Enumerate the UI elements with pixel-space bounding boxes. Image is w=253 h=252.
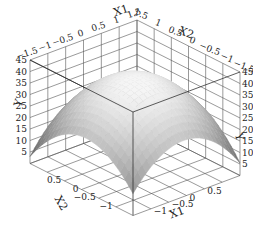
x2-tick-bottom: 0.5: [47, 175, 62, 185]
x1-tick-bottom: −1: [154, 206, 167, 216]
x2-tick-top: 1.5: [133, 7, 150, 22]
y-tick-left: 15: [16, 124, 28, 134]
y-tick-right: 35: [242, 90, 253, 100]
x2-tick-top: 1: [154, 17, 163, 28]
surface-plot: −1.5−1−0.500.511.5−1.5−1−0.500.511.55101…: [0, 0, 253, 252]
y-tick-right: 10: [242, 148, 253, 158]
y-tick-right: 45: [242, 67, 253, 77]
y-tick-left: 20: [16, 113, 28, 123]
x1-tick-top: 0.5: [90, 19, 107, 33]
x1-tick-top: −1: [37, 40, 53, 54]
y-tick-left: 45: [16, 55, 28, 65]
y-tick-right: 25: [242, 113, 253, 123]
x1-tick-bottom: 0.5: [207, 186, 222, 196]
y-tick-left: 40: [16, 67, 28, 77]
x2-tick-bottom: 0: [73, 184, 79, 194]
y-tick-left: 30: [16, 90, 28, 100]
y-tick-left: 5: [21, 147, 27, 157]
y-tick-right: 5: [242, 159, 248, 169]
grid-line: [133, 176, 240, 216]
x2-tick-bottom: −1: [100, 201, 113, 211]
y-tick-left: 35: [16, 78, 28, 88]
x1-tick-top: 0: [76, 27, 85, 38]
x1-tick-bottom: 0: [190, 193, 196, 203]
y-tick-right: 40: [242, 79, 253, 89]
y-tick-left: 10: [16, 136, 28, 146]
y-tick-right: 30: [242, 102, 253, 112]
x1-tick-top: −0.5: [51, 32, 75, 48]
x2-tick-top: −0.5: [198, 40, 222, 58]
x2-axis-label-bottom: X2: [52, 194, 71, 213]
x2-tick-bottom: −0.5: [74, 192, 96, 202]
